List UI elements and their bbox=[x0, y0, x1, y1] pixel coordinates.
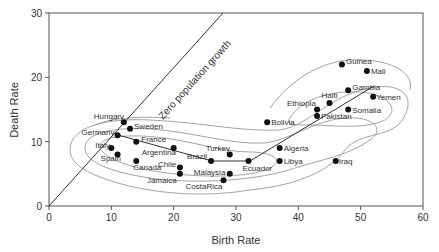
point-label: Turkey bbox=[206, 144, 230, 153]
point-label: Haiti bbox=[322, 91, 338, 100]
point-label: Chile bbox=[158, 160, 177, 169]
point-label: Somalia bbox=[352, 106, 381, 115]
point-label: Sweden bbox=[134, 122, 163, 131]
data-point bbox=[227, 171, 233, 177]
point-label: Jamaica bbox=[147, 176, 177, 185]
data-point bbox=[115, 132, 121, 138]
point-label: Italy bbox=[95, 141, 110, 150]
data-point bbox=[133, 139, 139, 145]
data-points: HungarySwedenGermanyFranceItalySpainCana… bbox=[82, 57, 401, 191]
y-tick-label: 20 bbox=[31, 72, 43, 83]
y-tick-label: 30 bbox=[31, 8, 43, 19]
point-label: France bbox=[141, 135, 166, 144]
point-label: Ethiopia bbox=[287, 99, 316, 108]
data-point bbox=[277, 158, 283, 164]
data-point bbox=[177, 164, 183, 170]
x-tick-label: 50 bbox=[355, 212, 367, 223]
x-tick-label: 60 bbox=[417, 212, 429, 223]
point-label: Hungary bbox=[94, 112, 124, 121]
x-axis-title: Birth Rate bbox=[212, 234, 261, 246]
data-point bbox=[345, 107, 351, 113]
data-point bbox=[208, 158, 214, 164]
point-label: Argentina bbox=[142, 148, 177, 157]
data-point bbox=[345, 87, 351, 93]
point-label: CostaRica bbox=[186, 182, 223, 191]
point-label: Bolivia bbox=[271, 118, 295, 127]
x-tick-label: 30 bbox=[230, 212, 242, 223]
point-label: Algeria bbox=[284, 144, 309, 153]
data-point bbox=[177, 171, 183, 177]
point-label: Libya bbox=[284, 157, 304, 166]
data-point bbox=[364, 68, 370, 74]
zero-population-growth-label: Zero population growth bbox=[156, 38, 233, 121]
x-tick-label: 0 bbox=[46, 212, 52, 223]
data-point bbox=[277, 145, 283, 151]
x-tick-label: 10 bbox=[106, 212, 118, 223]
data-point bbox=[314, 113, 320, 119]
point-label: Guinea bbox=[346, 57, 372, 66]
scatter-chart: Zero population growth HungarySwedenGerm… bbox=[0, 0, 439, 252]
point-label: Yemen bbox=[376, 93, 401, 102]
y-axis-title: Death Rate bbox=[8, 82, 20, 138]
point-label: Germany bbox=[82, 128, 115, 137]
point-label: Mali bbox=[371, 67, 386, 76]
zero-population-growth-line bbox=[49, 13, 223, 206]
x-axis: 0102030405060 bbox=[46, 206, 429, 223]
y-tick-label: 10 bbox=[31, 137, 43, 148]
y-tick-label: 0 bbox=[36, 201, 42, 212]
x-tick-label: 20 bbox=[168, 212, 180, 223]
point-label: Iraq bbox=[339, 157, 353, 166]
point-label: Spain bbox=[101, 154, 121, 163]
point-label: Ecuador bbox=[242, 164, 272, 173]
point-label: Pakistan bbox=[321, 112, 352, 121]
y-axis: 0102030 bbox=[31, 8, 49, 212]
density-contours bbox=[70, 60, 411, 194]
point-label: Brazil bbox=[187, 152, 207, 161]
point-label: Gambia bbox=[352, 83, 381, 92]
data-point bbox=[339, 61, 345, 67]
data-point bbox=[264, 119, 270, 125]
x-tick-label: 40 bbox=[293, 212, 305, 223]
data-point bbox=[127, 126, 133, 132]
point-label: Malaysia bbox=[194, 168, 226, 177]
data-point bbox=[327, 100, 333, 106]
